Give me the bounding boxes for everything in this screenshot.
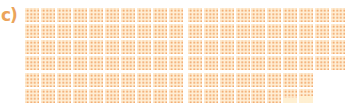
dot-subgrid [105, 8, 119, 22]
unit-block [25, 73, 55, 103]
dot-subgrid [89, 8, 103, 22]
dot-subgrid [267, 24, 281, 38]
dot-subgrid [73, 73, 87, 87]
unit-block [25, 8, 55, 38]
dot-subgrid [204, 40, 218, 54]
dot-subgrid [220, 56, 234, 70]
dot-subgrid [41, 73, 55, 87]
unit-block [220, 73, 250, 103]
unit-block [153, 8, 183, 38]
dot-subgrid [188, 24, 202, 38]
dot-subgrid [73, 40, 87, 54]
dot-subgrid [236, 24, 250, 38]
dot-subgrid [299, 8, 313, 22]
dot-subgrid [251, 89, 265, 103]
dot-subgrid [89, 89, 103, 103]
dot-subgrid [137, 73, 151, 87]
dot-subgrid [315, 8, 329, 22]
dot-subgrid [57, 56, 71, 70]
dot-subgrid [267, 89, 281, 103]
unit-block [220, 40, 250, 70]
dot-subgrid [121, 24, 135, 38]
dot-subgrid [204, 8, 218, 22]
dot-subgrid [236, 8, 250, 22]
dot-subgrid [315, 24, 329, 38]
dot-subgrid [25, 89, 39, 103]
dot-subgrid [89, 40, 103, 54]
dot-subgrid [267, 73, 281, 87]
dot-subgrid [153, 73, 167, 87]
dot-subgrid [25, 40, 39, 54]
dot-subgrid [169, 89, 183, 103]
dot-subgrid [121, 8, 135, 22]
dot-subgrid [105, 73, 119, 87]
dot-subgrid [251, 40, 265, 54]
dot-subgrid [236, 73, 250, 87]
dot-subgrid [169, 8, 183, 22]
dot-subgrid [137, 56, 151, 70]
unit-block [57, 73, 87, 103]
unit-block [251, 8, 281, 38]
dot-subgrid [73, 89, 87, 103]
dot-subgrid [41, 40, 55, 54]
dot-subgrid [169, 73, 183, 87]
dot-subgrid [220, 40, 234, 54]
dot-subgrid [41, 8, 55, 22]
dot-subgrid [153, 8, 167, 22]
unit-block [121, 40, 151, 70]
dot-subgrid [57, 89, 71, 103]
dot-subgrid [204, 73, 218, 87]
dot-subgrid [299, 89, 313, 103]
dot-subgrid [220, 8, 234, 22]
unit-block [25, 40, 55, 70]
dot-subgrid [105, 40, 119, 54]
unit-block [89, 40, 119, 70]
dot-subgrid [220, 73, 234, 87]
dot-subgrid [41, 24, 55, 38]
dot-subgrid [283, 56, 297, 70]
dot-subgrid [105, 89, 119, 103]
dot-subgrid [57, 40, 71, 54]
dot-subgrid [331, 24, 345, 38]
dot-subgrid [299, 24, 313, 38]
unit-block [89, 8, 119, 38]
dot-subgrid [121, 89, 135, 103]
dot-subgrid [105, 56, 119, 70]
unit-block [251, 40, 281, 70]
dot-subgrid [89, 24, 103, 38]
dot-subgrid [73, 8, 87, 22]
unit-block [283, 8, 313, 38]
dot-subgrid [25, 8, 39, 22]
dot-subgrid [188, 8, 202, 22]
dot-subgrid [169, 24, 183, 38]
dot-subgrid [236, 89, 250, 103]
dot-subgrid [331, 8, 345, 22]
dot-subgrid [220, 89, 234, 103]
dot-subgrid [283, 73, 297, 87]
dot-subgrid [251, 56, 265, 70]
dot-subgrid [283, 89, 297, 103]
dot-subgrid [331, 40, 345, 54]
dot-subgrid [137, 89, 151, 103]
unit-block [315, 8, 345, 38]
dot-subgrid [137, 8, 151, 22]
dot-subgrid [137, 40, 151, 54]
dot-subgrid [204, 24, 218, 38]
dot-subgrid [89, 56, 103, 70]
dot-subgrid [153, 24, 167, 38]
dot-subgrid [299, 73, 313, 87]
dot-subgrid [220, 24, 234, 38]
dot-subgrid [73, 24, 87, 38]
dot-subgrid [57, 24, 71, 38]
dot-subgrid [331, 56, 345, 70]
unit-block [89, 73, 119, 103]
dot-subgrid [41, 89, 55, 103]
dot-subgrid [251, 24, 265, 38]
dot-subgrid [267, 8, 281, 22]
dot-subgrid [251, 8, 265, 22]
dot-subgrid [283, 24, 297, 38]
dot-subgrid [169, 40, 183, 54]
dot-subgrid [153, 40, 167, 54]
unit-block [188, 40, 218, 70]
unit-block [251, 73, 281, 103]
